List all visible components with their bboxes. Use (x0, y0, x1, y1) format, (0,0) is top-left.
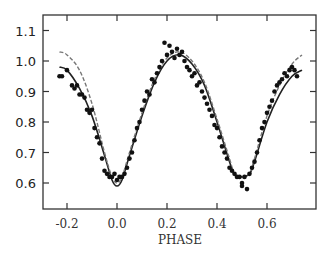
data-point (90, 108, 95, 113)
data-point (202, 95, 207, 100)
data-point (142, 98, 147, 103)
data-point (265, 111, 270, 116)
data-point (132, 138, 137, 143)
x-tick-label: 0.2 (157, 217, 176, 231)
data-point (82, 95, 87, 100)
data-point (152, 80, 157, 85)
data-point (182, 59, 187, 64)
data-point (200, 89, 205, 94)
data-point (160, 59, 165, 64)
data-point (155, 71, 160, 76)
data-point (172, 56, 177, 61)
data-point (192, 71, 197, 76)
data-point (127, 156, 132, 161)
data-point (222, 150, 227, 155)
data-point (260, 126, 265, 131)
data-point (197, 80, 202, 85)
data-point (250, 165, 255, 170)
data-point (147, 92, 152, 97)
x-axis-label: PHASE (158, 233, 202, 247)
y-tick-label: 0.6 (15, 176, 36, 191)
data-point (75, 83, 80, 88)
data-point (125, 165, 130, 170)
data-point (225, 156, 230, 161)
x-tick-label: 0.6 (257, 217, 276, 231)
data-point (60, 74, 65, 79)
data-point (245, 187, 250, 192)
data-point (165, 53, 170, 58)
data-point (130, 150, 135, 155)
data-point (257, 138, 262, 143)
y-tick-label: 0.9 (15, 85, 36, 100)
data-point (140, 108, 145, 113)
y-tick-label: 1.0 (15, 54, 36, 69)
x-tick-label: 0.4 (207, 217, 226, 231)
data-point (97, 141, 102, 146)
data-point (242, 175, 247, 180)
data-point (247, 172, 252, 177)
data-point (295, 74, 300, 79)
data-point (215, 126, 220, 131)
data-point (92, 126, 97, 131)
model-curve-dashed (60, 52, 303, 183)
data-point (122, 172, 127, 177)
data-point (237, 175, 242, 180)
data-point (95, 135, 100, 140)
data-point (135, 126, 140, 131)
data-point (210, 114, 215, 119)
data-point (292, 68, 297, 73)
data-point (167, 43, 172, 48)
x-tick-label: 0.0 (107, 217, 126, 231)
data-point (170, 50, 175, 55)
data-point (255, 150, 260, 155)
data-point (175, 47, 180, 52)
data-point (157, 65, 162, 70)
data-point (205, 101, 210, 106)
data-point (270, 98, 275, 103)
data-point (207, 108, 212, 113)
data-point (220, 144, 225, 149)
data-point (262, 120, 267, 125)
data-point (252, 159, 257, 164)
data-point (187, 68, 192, 73)
x-tick-label: -0.2 (55, 217, 78, 231)
y-tick-label: 0.8 (15, 115, 36, 130)
x-axis: -0.20.00.20.40.6 (55, 15, 276, 231)
data-point (217, 135, 222, 140)
data-point (272, 89, 277, 94)
data-point (112, 172, 117, 177)
data-point (285, 74, 290, 79)
light-curve-chart: 0.60.70.80.91.01.1 -0.20.00.20.40.6 PHAS… (0, 0, 329, 254)
data-point (267, 104, 272, 109)
data-point (65, 68, 70, 73)
plot-frame (43, 15, 316, 209)
y-tick-label: 0.7 (15, 146, 36, 161)
data-point (240, 184, 245, 189)
data-point (100, 156, 105, 161)
plot-area (57, 40, 302, 191)
data-point (137, 120, 142, 125)
data-point (280, 77, 285, 82)
data-point (180, 50, 185, 55)
data-point (162, 40, 167, 45)
y-tick-label: 1.1 (15, 24, 36, 39)
